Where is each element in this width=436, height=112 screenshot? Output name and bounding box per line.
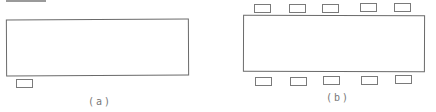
- panel-a-small-rect: [16, 79, 33, 88]
- panel-b-label: (b): [326, 92, 350, 103]
- panel-b-bottom-rect-4: [361, 76, 378, 85]
- panel-b-bottom-rect-1: [255, 77, 272, 86]
- panel-a-main-rect: [6, 19, 189, 77]
- panel-b-top-rect-2: [289, 4, 306, 13]
- panel-b-top-rect-1: [254, 4, 271, 13]
- panel-b-bottom-rect-3: [323, 76, 340, 85]
- panel-a-label: (a): [88, 96, 112, 107]
- panel-b-top-rect-5: [394, 3, 411, 12]
- panel-b-main-rect: [243, 15, 425, 73]
- panel-b-top-rect-4: [360, 3, 377, 12]
- panel-b-bottom-rect-5: [395, 75, 412, 84]
- panel-b-top-rect-3: [322, 4, 339, 13]
- panel-b-bottom-rect-2: [290, 77, 307, 86]
- top-edge-artifact: [6, 0, 46, 2]
